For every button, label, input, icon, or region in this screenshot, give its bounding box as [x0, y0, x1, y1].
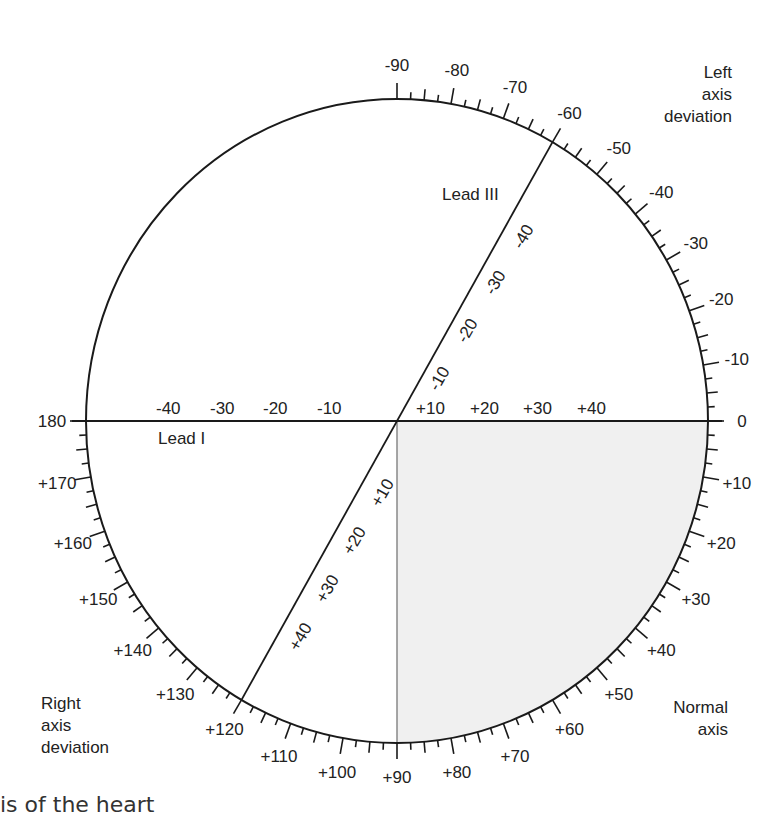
lead-iii-positive-labels: +10 +20 +30 +40 [285, 476, 398, 654]
tick-mark [147, 628, 159, 638]
scale-label: +130 [156, 685, 194, 704]
tick-mark [528, 119, 533, 129]
tick-mark [652, 230, 661, 236]
tick-mark [617, 649, 625, 657]
lead-iii-label-neg10: -10 [425, 363, 454, 394]
tick-mark [187, 668, 197, 680]
tick-mark [705, 463, 712, 464]
tick-mark [666, 582, 680, 590]
right-axis-deviation-line-1: Right [41, 694, 81, 713]
tick-mark [250, 707, 253, 713]
scale-label: +150 [79, 590, 117, 609]
tick-mark [438, 740, 439, 747]
tick-mark [275, 718, 278, 724]
tick-mark [355, 740, 356, 747]
tick-mark [103, 544, 109, 547]
tick-mark [516, 718, 519, 724]
normal-axis-shaded-region [397, 421, 708, 743]
lead-iii-label-pos10: +10 [367, 476, 398, 510]
right-axis-deviation-line-2: axis [41, 716, 71, 735]
scale-label: +60 [555, 720, 584, 739]
tick-mark [679, 280, 689, 285]
tick-mark [503, 103, 508, 118]
normal-axis-line-1: Normal [673, 698, 728, 717]
scale-label: -80 [445, 61, 470, 80]
tick-mark [87, 491, 94, 493]
tick-mark [90, 531, 105, 536]
tick-mark [705, 378, 712, 379]
tick-mark [314, 732, 317, 743]
scale-label: -60 [557, 104, 582, 123]
tick-mark [163, 639, 168, 644]
tick-mark [503, 724, 508, 739]
tick-mark [635, 204, 647, 214]
tick-mark [703, 362, 719, 365]
tick-mark [575, 685, 581, 694]
tick-mark [491, 107, 493, 114]
tick-mark [82, 463, 89, 464]
tick-mark [689, 305, 704, 310]
tick-mark [424, 742, 425, 753]
normal-axis-label: Normal axis [673, 698, 728, 739]
lead-i-label-neg40: -40 [156, 399, 181, 418]
tick-mark [607, 658, 612, 663]
lead-i-label-neg20: -20 [263, 399, 288, 418]
normal-axis-line-2: axis [698, 720, 728, 739]
lead-i-label-pos10: +10 [416, 399, 445, 418]
scale-label: +30 [681, 590, 710, 609]
tick-mark [697, 335, 708, 338]
tick-mark [666, 252, 680, 260]
tick-mark [694, 518, 701, 520]
scale-label: -70 [503, 78, 528, 97]
tick-mark [607, 178, 612, 183]
tick-mark [673, 269, 679, 272]
tick-mark [491, 728, 493, 735]
tick-mark [701, 491, 708, 493]
lead-i-label-pos40: +40 [577, 399, 606, 418]
tick-mark [564, 144, 568, 150]
lead-i-positive-labels: +10 +20 +30 +40 [416, 399, 606, 418]
lead-iii-label-pos40: +40 [285, 620, 316, 654]
scale-label: +10 [722, 474, 751, 493]
scale-label: +140 [114, 641, 152, 660]
tick-mark [673, 570, 679, 573]
tick-mark [553, 700, 561, 714]
tick-mark [635, 628, 647, 638]
lead-iii-label-pos20: +20 [339, 524, 370, 558]
right-axis-deviation-line-3: deviation [41, 738, 109, 757]
tick-mark [541, 707, 544, 713]
tick-mark [226, 693, 230, 699]
scale-label: +20 [707, 534, 736, 553]
tick-mark [76, 449, 87, 450]
tick-mark [75, 477, 91, 480]
tick-mark [701, 350, 708, 352]
tick-mark [145, 617, 151, 621]
lead-iii-label-pos30: +30 [312, 572, 343, 606]
tick-mark [451, 738, 454, 754]
tick-mark [659, 594, 665, 598]
tick-mark [659, 244, 665, 248]
lead-i-label-neg10: -10 [317, 399, 342, 418]
tick-mark [129, 594, 135, 598]
tick-mark [328, 735, 330, 742]
tick-mark [652, 606, 661, 612]
left-axis-deviation-label: Left axis deviation [664, 63, 732, 126]
tick-mark [94, 518, 101, 520]
lead-i-label-neg30: -30 [210, 399, 235, 418]
tick-mark [528, 713, 533, 723]
scale-label: -20 [709, 290, 734, 309]
tick-mark [597, 668, 607, 680]
lead-iii-label-neg40: -40 [509, 221, 538, 252]
tick-mark [694, 322, 701, 324]
scale-label: -30 [684, 234, 709, 253]
tick-mark [586, 160, 590, 166]
lead-i-negative-labels: -40 -30 -20 -10 [156, 399, 342, 418]
tick-mark [644, 617, 650, 621]
lead-i-label-pos20: +20 [470, 399, 499, 418]
tick-mark [553, 128, 561, 142]
tick-mark [477, 732, 480, 743]
lead-iii-negative-labels: -10 -20 -30 -40 [425, 221, 538, 394]
tick-mark [689, 531, 704, 536]
tick-mark [707, 449, 718, 450]
right-axis-deviation-label: Right axis deviation [41, 694, 109, 757]
